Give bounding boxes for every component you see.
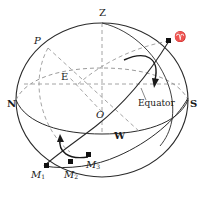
label-aries-icon: ♈ xyxy=(174,32,186,42)
m2-point-marker xyxy=(68,159,73,164)
label-m3-letter: M xyxy=(86,159,96,170)
celestial-sphere-figure: Z P ♈ E O N S W Equator M1 M2 M3 xyxy=(0,0,204,200)
motion-arrow-upper-head xyxy=(152,78,159,88)
m3-point-marker xyxy=(86,152,91,157)
vertical-circle-arc xyxy=(102,23,173,146)
label-east: E xyxy=(61,72,68,82)
label-m2-subscript: 2 xyxy=(74,173,78,180)
label-m1: M1 xyxy=(31,170,45,180)
label-south: S xyxy=(190,99,197,109)
label-north: N xyxy=(7,99,16,109)
polar-axis xyxy=(48,48,140,132)
label-center-origin: O xyxy=(96,110,104,120)
label-m1-letter: M xyxy=(31,169,41,180)
label-zenith: Z xyxy=(99,8,106,18)
label-m2-letter: M xyxy=(64,169,74,180)
label-m3-subscript: 3 xyxy=(96,163,100,170)
label-m1-subscript: 1 xyxy=(41,173,45,180)
label-equator: Equator xyxy=(138,99,175,108)
motion-arrow-lower-head xyxy=(57,134,64,142)
aries-point-marker xyxy=(166,38,171,43)
label-west: W xyxy=(114,131,125,141)
motion-arrow-lower-path xyxy=(60,138,88,158)
label-pole: P xyxy=(34,36,41,46)
label-m3: M3 xyxy=(86,160,100,170)
m1-point-marker xyxy=(44,163,49,168)
label-m2: M2 xyxy=(64,170,78,180)
